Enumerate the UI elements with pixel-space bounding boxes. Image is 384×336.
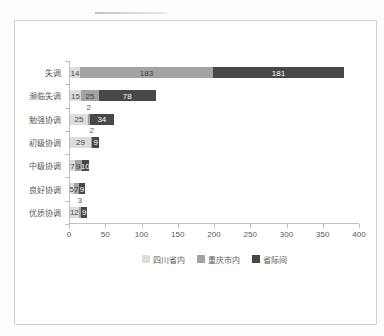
x-tick-label: 300 xyxy=(280,230,293,239)
value-label: 9 xyxy=(93,137,97,148)
legend-swatch xyxy=(252,255,260,263)
bar-segment: 9 xyxy=(79,183,86,194)
plot-area: 1418318115257825234292979105791239 xyxy=(69,61,359,224)
x-axis-tick xyxy=(250,224,251,228)
x-axis-tick xyxy=(142,224,143,228)
x-tick-label: 200 xyxy=(207,230,220,239)
bar-segment: 25 xyxy=(81,90,99,101)
category-label: 初级协调 xyxy=(15,131,65,154)
bar-row: 2929 xyxy=(70,131,359,154)
bar-segment: 34 xyxy=(90,114,115,125)
bar-segment: 14 xyxy=(70,67,80,78)
x-axis-tick xyxy=(105,224,106,228)
bar-segment: 9 xyxy=(81,207,88,218)
legend-item: 省际间 xyxy=(252,254,287,265)
value-label: 9 xyxy=(82,207,86,218)
category-labels: 失调濒临失调勉强协调初级协调中级协调良好协调优质协调 xyxy=(15,61,65,224)
legend-label: 四川省内 xyxy=(153,254,185,265)
x-axis-tick xyxy=(178,224,179,228)
y-axis-tick xyxy=(65,154,69,155)
value-label: 183 xyxy=(140,67,153,78)
bar-row: 152578 xyxy=(70,84,359,107)
x-tick-label: 50 xyxy=(101,230,110,239)
category-label: 中级协调 xyxy=(15,154,65,177)
x-tick-label: 100 xyxy=(135,230,148,239)
stacked-bar: 7910 xyxy=(70,160,89,171)
category-label: 失调 xyxy=(15,61,65,84)
x-tick-label: 400 xyxy=(352,230,365,239)
value-label: 78 xyxy=(123,90,132,101)
category-label: 勉强协调 xyxy=(15,108,65,131)
stacked-bar: 152578 xyxy=(70,90,156,101)
bar-row: 579 xyxy=(70,177,359,200)
x-axis-tick xyxy=(69,224,70,228)
y-axis-tick xyxy=(65,84,69,85)
stacked-bar: 25234 xyxy=(70,114,114,125)
bar-segment: 12 xyxy=(70,207,79,218)
category-label: 良好协调 xyxy=(15,177,65,200)
x-tick-label: 250 xyxy=(244,230,257,239)
y-axis-tick xyxy=(65,108,69,109)
value-label: 12 xyxy=(70,207,79,218)
stacked-bar: 1239 xyxy=(70,207,87,218)
legend: 四川省内重庆市内省际间 xyxy=(69,252,359,266)
bar-segment: 29 xyxy=(70,137,91,148)
bar-row: 1239 xyxy=(70,201,359,224)
bar-segment: 9 xyxy=(92,137,99,148)
value-label: 10 xyxy=(81,160,90,171)
stacked-bar: 2929 xyxy=(70,137,99,148)
chart-card: 失调濒临失调勉强协调初级协调中级协调良好协调优质协调 1418318115257… xyxy=(14,20,377,325)
bar-segment: 183 xyxy=(80,67,213,78)
value-label: 15 xyxy=(71,90,80,101)
value-label: 25 xyxy=(75,114,84,125)
y-axis-tick xyxy=(65,177,69,178)
category-label: 濒临失调 xyxy=(15,84,65,107)
value-label: 2 xyxy=(90,125,94,136)
value-label: 14 xyxy=(71,67,80,78)
bar-segment: 78 xyxy=(99,90,156,101)
bar-segment: 25 xyxy=(70,114,88,125)
y-axis-tick xyxy=(65,131,69,132)
x-tick-label: 0 xyxy=(67,230,71,239)
scan-artifact-streak xyxy=(95,12,167,14)
bar-segment: 181 xyxy=(213,67,344,78)
x-tick-label: 350 xyxy=(316,230,329,239)
x-axis-tick xyxy=(323,224,324,228)
bar-row: 25234 xyxy=(70,108,359,131)
value-label: 29 xyxy=(76,137,85,148)
category-label: 优质协调 xyxy=(15,201,65,224)
x-axis-tick xyxy=(359,224,360,228)
value-label: 2 xyxy=(87,102,91,113)
x-axis-tick xyxy=(287,224,288,228)
bar-row: 7910 xyxy=(70,154,359,177)
y-axis-tick xyxy=(65,201,69,202)
bar-segment: 10 xyxy=(82,160,89,171)
value-label: 25 xyxy=(85,90,94,101)
stacked-bar: 579 xyxy=(70,183,85,194)
x-tick-label: 150 xyxy=(171,230,184,239)
legend-label: 省际间 xyxy=(263,254,287,265)
y-axis-tick xyxy=(65,61,69,62)
bar-segment: 15 xyxy=(70,90,81,101)
legend-item: 四川省内 xyxy=(142,254,185,265)
x-axis-tick xyxy=(214,224,215,228)
value-label: 9 xyxy=(80,183,84,194)
value-label: 181 xyxy=(272,67,285,78)
value-label: 34 xyxy=(97,114,106,125)
bar-row: 14183181 xyxy=(70,61,359,84)
legend-item: 重庆市内 xyxy=(197,254,240,265)
legend-swatch xyxy=(142,255,150,263)
stacked-bar: 14183181 xyxy=(70,67,344,78)
value-label: 3 xyxy=(78,195,82,206)
legend-swatch xyxy=(197,255,205,263)
legend-label: 重庆市内 xyxy=(208,254,240,265)
